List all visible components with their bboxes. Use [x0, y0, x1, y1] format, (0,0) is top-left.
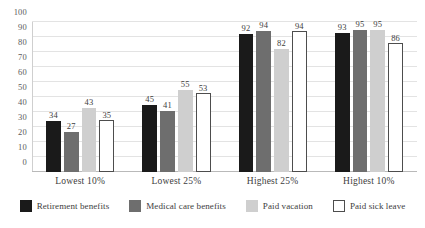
- legend-item[interactable]: Medical care benefits: [129, 200, 226, 212]
- y-axis-tick-label: 60: [18, 67, 27, 77]
- bar-group: 45415553: [128, 22, 224, 172]
- bar-slot: 93: [335, 22, 350, 172]
- bar-value-label: 41: [163, 100, 172, 110]
- bar-value-label: 95: [356, 19, 365, 29]
- bar-slot: 27: [64, 22, 79, 172]
- bar-value-label: 43: [85, 97, 94, 107]
- bar-slot: 53: [196, 22, 211, 172]
- bar-slot: 95: [353, 22, 368, 172]
- bar-value-label: 92: [241, 23, 250, 33]
- bar[interactable]: 27: [64, 132, 79, 173]
- bar-groups: 34274335454155539294829493959586: [32, 22, 417, 172]
- bar[interactable]: 45: [142, 105, 157, 173]
- category-label: Lowest 10%: [32, 176, 128, 186]
- bar-slot: 94: [256, 22, 271, 172]
- y-axis-tick-label: 100: [14, 7, 27, 17]
- bar-slot: 95: [370, 22, 385, 172]
- bar-slot: 34: [46, 22, 61, 172]
- legend-label: Paid sick leave: [350, 201, 405, 211]
- bar[interactable]: 34: [46, 121, 61, 172]
- bar-slot: 92: [239, 22, 254, 172]
- bar[interactable]: 41: [160, 111, 175, 173]
- bar-slot: 43: [82, 22, 97, 172]
- plot-area: 1009080706050403020100 34274335454155539…: [32, 22, 417, 172]
- legend-item[interactable]: Paid vacation: [246, 200, 313, 212]
- bar-chart: 1009080706050403020100 34274335454155539…: [0, 0, 425, 228]
- bar[interactable]: 55: [178, 90, 193, 173]
- bar-value-label: 53: [199, 83, 208, 93]
- legend-swatch-icon: [129, 200, 141, 212]
- y-axis-tick-label: 90: [18, 22, 27, 32]
- bar-value-label: 34: [49, 110, 58, 120]
- legend-swatch-icon: [20, 200, 32, 212]
- bar-value-label: 82: [277, 38, 286, 48]
- bar[interactable]: 86: [388, 43, 403, 172]
- bar-value-label: 45: [145, 94, 154, 104]
- bar-group: 34274335: [32, 22, 128, 172]
- legend-item[interactable]: Paid sick leave: [333, 200, 405, 212]
- bar[interactable]: 53: [196, 93, 211, 173]
- bar[interactable]: 82: [274, 49, 289, 172]
- y-axis-tick-label: 70: [18, 52, 27, 62]
- bar-value-label: 86: [391, 33, 400, 43]
- y-axis-tick-label: 20: [18, 127, 27, 137]
- y-axis-tick-label: 0: [23, 157, 27, 167]
- bar-value-label: 27: [67, 121, 76, 131]
- legend-label: Retirement benefits: [37, 201, 110, 211]
- category-label: Highest 10%: [321, 176, 417, 186]
- bar[interactable]: 95: [353, 30, 368, 173]
- bar[interactable]: 43: [82, 108, 97, 173]
- category-label: Lowest 25%: [128, 176, 224, 186]
- legend-item[interactable]: Retirement benefits: [20, 200, 110, 212]
- bar[interactable]: 93: [335, 33, 350, 173]
- bar-group: 92948294: [225, 22, 321, 172]
- category-axis-labels: Lowest 10%Lowest 25%Highest 25%Highest 1…: [32, 176, 417, 186]
- legend-label: Paid vacation: [263, 201, 313, 211]
- bar-group: 93959586: [321, 22, 417, 172]
- bar[interactable]: 94: [292, 31, 307, 172]
- bar-slot: 86: [388, 22, 403, 172]
- bar[interactable]: 94: [256, 31, 271, 172]
- bar[interactable]: 92: [239, 34, 254, 172]
- bar-slot: 41: [160, 22, 175, 172]
- y-axis-tick-label: 40: [18, 97, 27, 107]
- category-label: Highest 25%: [225, 176, 321, 186]
- bar-value-label: 93: [338, 22, 347, 32]
- legend-swatch-icon: [333, 200, 345, 212]
- bar-value-label: 95: [373, 19, 382, 29]
- bar-value-label: 94: [295, 21, 304, 31]
- bar[interactable]: 35: [99, 120, 114, 173]
- bar[interactable]: 95: [370, 30, 385, 173]
- bar-value-label: 55: [181, 79, 190, 89]
- y-axis-tick-label: 80: [18, 37, 27, 47]
- y-axis-tick-label: 30: [18, 112, 27, 122]
- bar-value-label: 35: [102, 110, 111, 120]
- legend-swatch-icon: [246, 200, 258, 212]
- bar-slot: 82: [274, 22, 289, 172]
- bar-slot: 45: [142, 22, 157, 172]
- chart-legend: Retirement benefitsMedical care benefits…: [0, 200, 425, 212]
- y-axis-tick-label: 10: [18, 142, 27, 152]
- legend-label: Medical care benefits: [146, 201, 226, 211]
- y-axis-tick-label: 50: [18, 82, 27, 92]
- bar-value-label: 94: [259, 20, 268, 30]
- bar-slot: 94: [292, 22, 307, 172]
- bar-slot: 55: [178, 22, 193, 172]
- bar-slot: 35: [99, 22, 114, 172]
